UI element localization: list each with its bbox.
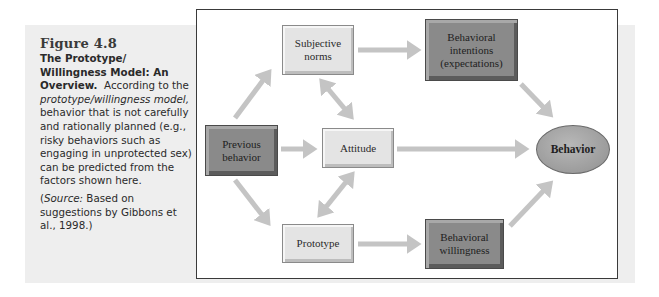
node-subjective-norms: Subjective norms xyxy=(282,25,354,75)
node-attitude: Attitude xyxy=(322,128,394,168)
node-behavioral-intentions: Behavioral intentions (expectations) xyxy=(425,19,518,81)
arrow-intentions-to-behavior xyxy=(521,84,548,112)
arrow-attitude-prototype xyxy=(322,177,350,212)
node-previous-behavior: Previous behavior xyxy=(205,125,278,176)
node-prototype: Prototype xyxy=(282,224,354,263)
arrow-previous-to-norms xyxy=(235,75,267,118)
arrow-norms-attitude xyxy=(324,84,349,114)
node-behavioral-willingness: Behavioral willingness xyxy=(425,219,504,269)
arrow-previous-to-prototype xyxy=(235,180,266,220)
arrow-willingness-to-behavior xyxy=(510,186,548,226)
node-behavior: Behavior xyxy=(536,125,610,174)
